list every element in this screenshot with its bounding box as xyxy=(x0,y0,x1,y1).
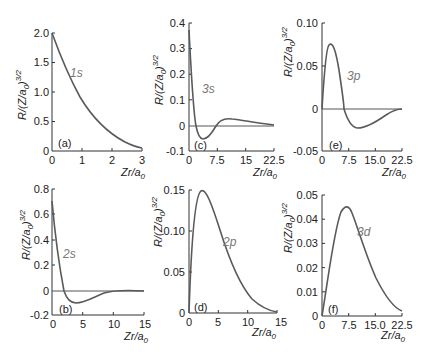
x-tick-label: 15 xyxy=(240,154,252,166)
x-axis-title: Zr/a0 xyxy=(381,166,407,181)
x-tick-label: 0 xyxy=(49,154,55,166)
curve-label-2p: 2p xyxy=(222,235,237,249)
y-tick-label: 0.15 xyxy=(164,184,185,196)
y-tick-label: 0.2 xyxy=(170,68,185,80)
curve-label-3d: 3d xyxy=(357,225,371,239)
y-axis-title: R/(Z/a0)3/2 xyxy=(280,203,297,253)
panel-a: 2.0 1.5 1.0 0.5 0 0 1 2 3 1s (a) Zr/a0 R… xyxy=(14,27,146,181)
curve-3d xyxy=(322,207,402,316)
x-tick-label: 0 xyxy=(186,316,192,328)
x-tick-label: 2 xyxy=(109,154,115,166)
curve-label-3s: 3s xyxy=(202,82,215,96)
curve-label-2s: 2s xyxy=(62,247,76,261)
y-tick-label: 1.5 xyxy=(34,56,49,68)
y-tick-label: 1.0 xyxy=(34,86,49,98)
svg-text:Zr/a0: Zr/a0 xyxy=(380,329,406,344)
curve-label-1s: 1s xyxy=(70,66,83,80)
svg-text:Zr/a0: Zr/a0 xyxy=(120,166,146,181)
panel-label-a: (a) xyxy=(58,137,71,149)
y-tick-label: -0.1 xyxy=(166,145,185,157)
x-tick-label: 7.5 xyxy=(341,154,356,166)
y-tick-label: 0.2 xyxy=(34,259,49,271)
svg-text:Zr/a0: Zr/a0 xyxy=(381,166,407,181)
svg-text:Zr/a0: Zr/a0 xyxy=(123,330,149,345)
x-axis-title: Zr/a0 xyxy=(251,326,277,341)
y-tick-label: -0.05 xyxy=(293,145,318,157)
x-tick-label: 15 xyxy=(275,316,287,328)
x-tick-label: 5 xyxy=(215,316,221,328)
panel-label-d: (d) xyxy=(194,301,207,313)
x-axis-title: Zr/a0 xyxy=(120,166,146,181)
x-tick-label: 22.5 xyxy=(391,154,412,166)
curve-2p xyxy=(189,191,277,313)
y-tick-label: 0 xyxy=(312,310,318,322)
panel-label-f: (f) xyxy=(328,303,338,315)
svg-text:R/(Z/a0)3/2: R/(Z/a0)3/2 xyxy=(18,210,35,260)
x-tick-label: 0 xyxy=(50,318,56,330)
y-tick-label: 0.1 xyxy=(170,94,185,106)
y-tick-label: 0.02 xyxy=(297,262,318,274)
curve-1s xyxy=(52,33,142,148)
x-axis-title: Zr/a0 xyxy=(252,166,278,181)
y-tick-label: 0.10 xyxy=(297,17,318,29)
y-tick-label: 0 xyxy=(43,285,49,297)
y-tick-label: 0.5 xyxy=(34,115,49,127)
radial-wavefunction-figure: 2.0 1.5 1.0 0.5 0 0 1 2 3 1s (a) Zr/a0 R… xyxy=(0,0,433,361)
y-tick-label: 0.05 xyxy=(297,189,318,201)
svg-text:R/(Z/a0)3/2: R/(Z/a0)3/2 xyxy=(280,203,297,253)
x-axis-title: Zr/a0 xyxy=(123,330,149,345)
x-tick-label: 5 xyxy=(80,318,86,330)
y-tick-label: 0.4 xyxy=(170,17,185,29)
x-tick-label: 1 xyxy=(79,154,85,166)
x-tick-label: 0 xyxy=(319,319,325,331)
x-tick-label: 15 xyxy=(139,318,151,330)
y-tick-label: 0 xyxy=(312,103,318,115)
y-tick-label: 0.03 xyxy=(297,237,318,249)
y-axis-title: R/(Z/a0)3/2 xyxy=(151,55,168,105)
x-tick-label: 15.0 xyxy=(364,154,385,166)
svg-text:R/(Z/a0)3/2: R/(Z/a0)3/2 xyxy=(14,70,31,120)
svg-text:R/(Z/a0)3/2: R/(Z/a0)3/2 xyxy=(280,27,297,77)
x-tick-label: 10 xyxy=(108,318,120,330)
y-tick-label: 0.04 xyxy=(297,213,318,225)
panel-e: 0.10 0.05 0 -0.05 0 7.5 15.0 22.5 3p (e)… xyxy=(280,17,413,181)
panel-b: 0.8 0.6 0.4 0.2 0 -0.2 0 5 10 15 2s (b) … xyxy=(18,183,151,345)
y-tick-label: 0.05 xyxy=(164,266,185,278)
y-tick-label: -0.2 xyxy=(30,309,49,321)
panel-f: 0.05 0.04 0.03 0.02 0.01 0 0 7.5 15.0 22… xyxy=(280,189,413,344)
y-tick-label: 0.8 xyxy=(34,183,49,195)
x-tick-label: 22.5 xyxy=(263,154,284,166)
y-axis-title: R/(Z/a0)3/2 xyxy=(280,27,297,77)
x-tick-label: 7.5 xyxy=(209,154,224,166)
panel-d: 0.15 0.10 0.05 0 0 5 10 15 2p (d) Zr/a0 … xyxy=(150,184,287,341)
panel-c: 0.4 0.3 0.2 0.1 0 -0.1 0 7.5 15 22.5 3s … xyxy=(151,17,285,181)
y-tick-label: 0.05 xyxy=(297,60,318,72)
y-axis-title: R/(Z/a0)3/2 xyxy=(150,197,167,247)
curve-label-3p: 3p xyxy=(347,69,361,83)
y-tick-label: 0.10 xyxy=(164,225,185,237)
x-tick-label: 0 xyxy=(319,154,325,166)
x-axis-title: Zr/a0 xyxy=(380,329,406,344)
y-tick-label: 0.01 xyxy=(297,286,318,298)
panel-label-b: (b) xyxy=(59,303,72,315)
y-axis-title: R/(Z/a0)3/2 xyxy=(18,210,35,260)
svg-text:Zr/a0: Zr/a0 xyxy=(252,166,278,181)
y-tick-label: 0.3 xyxy=(170,42,185,54)
y-tick-label: 2.0 xyxy=(34,27,49,39)
y-tick-label: 0 xyxy=(179,307,185,319)
y-tick-label: 0.6 xyxy=(34,208,49,220)
x-tick-label: 7.5 xyxy=(341,319,356,331)
x-tick-label: 0 xyxy=(186,154,192,166)
svg-text:R/(Z/a0)3/2: R/(Z/a0)3/2 xyxy=(150,197,167,247)
svg-text:R/(Z/a0)3/2: R/(Z/a0)3/2 xyxy=(151,55,168,105)
panel-label-e: (e) xyxy=(329,139,342,151)
y-axis-title: R/(Z/a0)3/2 xyxy=(14,70,31,120)
y-tick-label: 0 xyxy=(179,120,185,132)
panel-label-c: (c) xyxy=(194,139,207,151)
curve-3p xyxy=(322,44,402,128)
y-tick-label: 0.4 xyxy=(34,234,49,246)
svg-text:Zr/a0: Zr/a0 xyxy=(251,326,277,341)
x-tick-label: 3 xyxy=(139,154,145,166)
